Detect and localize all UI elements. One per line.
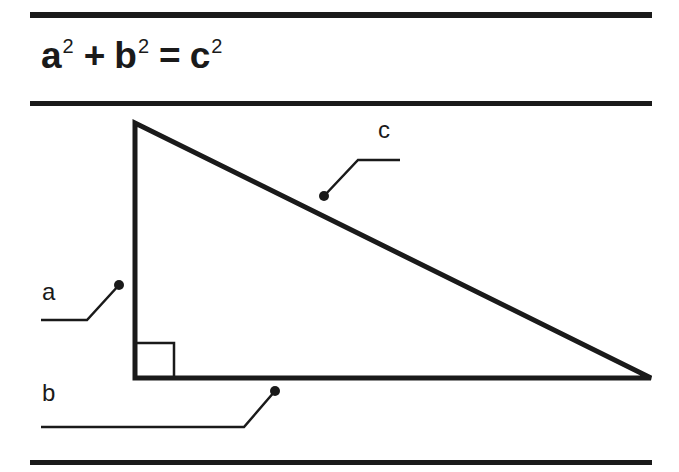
- label-b: b: [42, 381, 55, 405]
- triangle-diagram: [0, 0, 679, 472]
- label-a: a: [42, 280, 55, 304]
- bottom-rule: [30, 460, 652, 465]
- leader-a-dot: [114, 280, 124, 290]
- leader-b-dot: [270, 386, 280, 396]
- right-angle-marker: [137, 343, 174, 378]
- label-c: c: [378, 118, 390, 142]
- leader-c-dot: [319, 191, 329, 201]
- leader-b: [41, 386, 280, 427]
- leader-c: [319, 160, 400, 201]
